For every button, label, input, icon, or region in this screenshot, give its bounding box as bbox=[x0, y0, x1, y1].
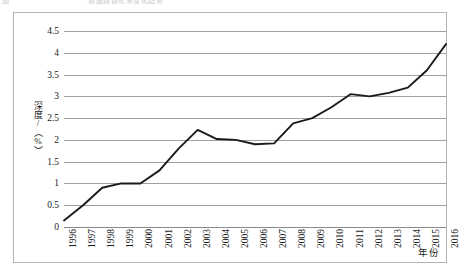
x-tick-label: 2006 bbox=[259, 229, 269, 248]
line-series-path bbox=[64, 44, 446, 220]
y-tick-label: 3.5 bbox=[47, 70, 59, 80]
x-axis-title: 年份 bbox=[418, 245, 439, 259]
x-tick-label: 2000 bbox=[144, 229, 154, 248]
x-tick-label: 2002 bbox=[183, 229, 193, 248]
top-cropped-caption-left: 图 bbox=[2, 0, 10, 6]
chart-frame: 深度/（%） 00.511.522.533.544.5 199619971998… bbox=[13, 12, 447, 263]
y-tick-label: 1 bbox=[54, 178, 59, 188]
x-tick-label: 2004 bbox=[221, 229, 231, 248]
y-tick-label: 0.5 bbox=[47, 200, 59, 210]
y-axis-title: 深度/（%） bbox=[32, 101, 45, 154]
y-tick-label: 3 bbox=[54, 91, 59, 101]
x-tick-label: 2010 bbox=[335, 229, 345, 248]
plot-area: 00.511.522.533.544.5 bbox=[64, 31, 446, 227]
x-tick-label: 2001 bbox=[164, 229, 174, 248]
x-tick-label: 2003 bbox=[202, 229, 212, 248]
y-tick-label: 2.5 bbox=[47, 113, 59, 123]
y-tick-label: 4 bbox=[54, 48, 59, 58]
x-tick-label: 1999 bbox=[125, 229, 135, 248]
top-cropped-caption: 图 我国城镇化率变化趋势 bbox=[0, 0, 459, 9]
x-tick-label: 2011 bbox=[355, 229, 365, 248]
x-tick-label: 1998 bbox=[106, 229, 116, 248]
x-tick-label: 2005 bbox=[240, 229, 250, 248]
x-tick-label: 2008 bbox=[297, 229, 307, 248]
x-tick-label: 2013 bbox=[393, 229, 403, 248]
x-tick-label: 1997 bbox=[87, 229, 97, 248]
y-tick-label: 1.5 bbox=[47, 157, 59, 167]
x-tick-labels-group: 1996199719981999200020012002200320042005… bbox=[64, 227, 446, 273]
y-tick-label: 0 bbox=[54, 222, 59, 232]
y-tick-label: 2 bbox=[54, 135, 59, 145]
x-tick-label: 1996 bbox=[68, 229, 78, 248]
top-cropped-caption-right: 我国城镇化率变化趋势 bbox=[88, 0, 163, 6]
x-tick-label: 2007 bbox=[278, 229, 288, 248]
x-tick-label: 2012 bbox=[374, 229, 384, 248]
line-series-svg bbox=[64, 31, 446, 227]
x-tick-label: 2016 bbox=[450, 229, 459, 248]
x-tick-label: 2009 bbox=[316, 229, 326, 248]
y-tick-label: 4.5 bbox=[47, 26, 59, 36]
